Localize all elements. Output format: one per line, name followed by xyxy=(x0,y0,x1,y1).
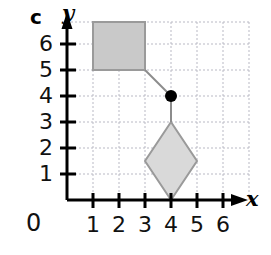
shape-square xyxy=(93,22,145,70)
origin-label: 0 xyxy=(26,211,41,235)
x-tick-label-5: 5 xyxy=(186,214,208,236)
x-axis-label: x xyxy=(246,188,259,209)
y-tick-label-3: 3 xyxy=(31,111,53,133)
x-tick-label-2: 2 xyxy=(108,214,130,236)
coordinate-grid-figure: c xyxy=(0,0,271,255)
y-tick-label-2: 2 xyxy=(31,137,53,159)
y-tick-label-6: 6 xyxy=(31,33,53,55)
x-tick-label-1: 1 xyxy=(82,214,104,236)
x-tick-label-6: 6 xyxy=(212,214,234,236)
shape-diamond xyxy=(145,122,197,200)
x-tick-label-3: 3 xyxy=(134,214,156,236)
y-axis-label: y xyxy=(62,2,74,23)
y-tick-label-1: 1 xyxy=(31,163,53,185)
y-tick-label-4: 4 xyxy=(31,85,53,107)
point-center-of-rotation xyxy=(165,90,177,102)
x-tick-label-4: 4 xyxy=(160,214,182,236)
y-tick-label-5: 5 xyxy=(31,59,53,81)
